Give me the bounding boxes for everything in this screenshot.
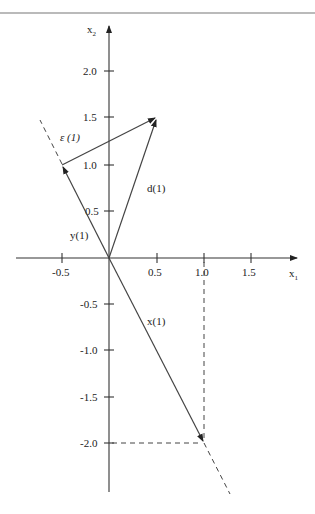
- svg-text:-0.5: -0.5: [80, 298, 98, 310]
- x2-axis-label: x2: [87, 23, 97, 38]
- svg-text:1.0: 1.0: [195, 266, 209, 278]
- label-y1: y(1): [70, 229, 89, 242]
- x1-axis-label: x1: [289, 267, 299, 282]
- label-epsilon1: ε (1): [60, 131, 80, 144]
- x-line-extension-upper: [40, 120, 62, 164]
- svg-text:1.5: 1.5: [83, 111, 97, 123]
- vector-y1: [63, 167, 109, 258]
- svg-text:0.5: 0.5: [148, 266, 162, 278]
- vector-diagram: x2 x1 -0.5 0.5 1.0 1.5 2.0 1.5 1.0 0.5 -…: [0, 0, 315, 514]
- svg-text:1.5: 1.5: [242, 266, 256, 278]
- svg-text:-2.0: -2.0: [80, 437, 98, 449]
- svg-text:-1.5: -1.5: [80, 391, 98, 403]
- svg-text:1.0: 1.0: [83, 159, 97, 171]
- x-line-extension-lower: [204, 443, 230, 494]
- label-d1: d(1): [147, 182, 166, 195]
- svg-text:-0.5: -0.5: [52, 266, 70, 278]
- svg-text:-1.0: -1.0: [80, 344, 98, 356]
- label-x1: x(1): [147, 315, 166, 328]
- vector-x1: [109, 258, 203, 441]
- x-ticks: -0.5 0.5 1.0 1.5: [52, 253, 256, 278]
- svg-text:2.0: 2.0: [83, 65, 97, 77]
